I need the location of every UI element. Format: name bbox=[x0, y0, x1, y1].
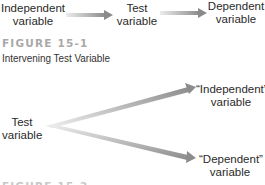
node-label-line1: “Dependent” bbox=[199, 153, 261, 166]
node-label-line1: Dependent bbox=[206, 0, 265, 13]
arrow-test-to-dependent-fork bbox=[46, 124, 196, 163]
node-independent-variable-quoted: “Independent” variable bbox=[196, 83, 265, 109]
node-label-line1: Independent bbox=[1, 2, 65, 15]
node-test-variable-fork: Test variable bbox=[2, 116, 42, 142]
node-label-line2: variable bbox=[114, 15, 160, 28]
figure-label-2: FIGURE 15-2 bbox=[2, 180, 89, 185]
node-label-line1: “Independent” bbox=[196, 83, 265, 96]
node-dependent-variable: Dependent variable bbox=[206, 0, 265, 26]
node-dependent-variable-quoted: “Dependent” variable bbox=[199, 153, 261, 179]
node-label-line2: variable bbox=[1, 15, 65, 28]
arrow-test-to-dependent bbox=[160, 8, 207, 18]
node-label-line2: variable bbox=[196, 96, 265, 109]
node-test-variable: Test variable bbox=[114, 2, 160, 28]
figure-label: FIGURE 15-1 bbox=[2, 37, 89, 49]
figure-caption: Intervening Test Variable bbox=[2, 52, 110, 64]
node-independent-variable: Independent variable bbox=[1, 2, 65, 28]
node-label-line1: Test bbox=[2, 116, 42, 129]
arrow-test-to-independent bbox=[46, 83, 196, 128]
arrow-independent-to-test bbox=[66, 10, 113, 20]
node-label-line2: variable bbox=[206, 13, 265, 26]
node-label-line2: variable bbox=[199, 166, 261, 179]
node-label-line1: Test bbox=[114, 2, 160, 15]
node-label-line2: variable bbox=[2, 129, 42, 142]
